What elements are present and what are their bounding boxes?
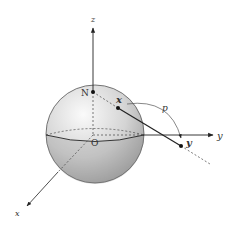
y-axis-label: y	[216, 130, 223, 141]
map-p-label: p	[162, 103, 168, 113]
stereographic-projection-diagram: z y x N O x y p	[0, 0, 236, 230]
origin-label: O	[91, 138, 98, 148]
sphere-point	[116, 106, 120, 110]
north-pole-label: N	[81, 88, 89, 98]
projected-point	[179, 144, 183, 148]
point-y-label: y	[185, 137, 193, 148]
projection-line-extension	[181, 146, 210, 164]
x-axis-label: x	[15, 209, 20, 218]
z-axis-label: z	[90, 15, 96, 24]
north-pole-point	[91, 90, 95, 94]
point-x-label: x	[115, 94, 123, 105]
x-axis	[27, 172, 58, 206]
